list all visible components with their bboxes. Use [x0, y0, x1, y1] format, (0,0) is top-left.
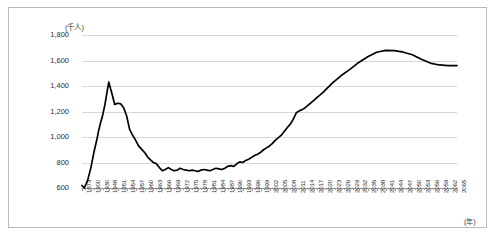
plot-area: (千人) 6008001,0001,2001,4001,6001,800 187…: [9, 8, 486, 227]
series-polyline: [82, 50, 457, 188]
chart-figure: (千人) 6008001,0001,2001,4001,6001,800 187…: [8, 7, 487, 228]
x-axis-unit-label: (年): [464, 216, 476, 226]
line-series-population: [9, 8, 488, 229]
